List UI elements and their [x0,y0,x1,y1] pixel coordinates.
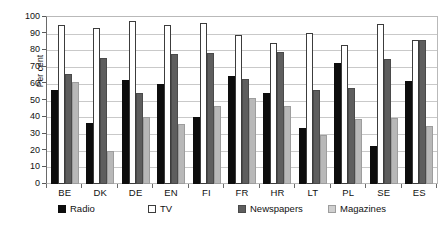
bar-lt-tv [306,33,313,184]
x-axis-labels: BEDKDEENFIFRHRLTPLSEES [47,187,437,198]
y-axis-tick-label: 0 [35,178,42,188]
bar-lt-radio [299,128,306,184]
bar-de-tv [129,21,136,184]
bar-group-dk [82,17,117,184]
x-axis-label-en: EN [153,187,188,198]
bar-chart: Per cent 0102030405060708090100 BEDKDEEN… [0,0,447,228]
x-axis-label-dk: DK [82,187,117,198]
legend-label: Magazines [340,203,386,214]
bar-se-tv [377,24,384,184]
bar-de-magazines [143,117,150,184]
y-axis-tick: 20 [30,145,46,155]
y-axis-tick: 30 [30,128,46,138]
bar-pl-radio [334,63,341,184]
bar-fi-newspapers [207,53,214,184]
bar-group-es [402,17,437,184]
x-axis-label-es: ES [402,187,437,198]
x-axis-label-be: BE [47,187,82,198]
bar-lt-newspapers [313,90,320,184]
legend-item-radio[interactable]: Radio [58,203,148,214]
legend-label: Newspapers [250,203,303,214]
bar-hr-tv [270,43,277,184]
legend-swatch-radio-icon [58,205,66,213]
bar-group-de [118,17,153,184]
bar-groups [47,17,437,184]
legend-swatch-magazines-icon [328,205,336,213]
bar-se-newspapers [384,59,391,184]
x-axis-label-fi: FI [189,187,224,198]
x-axis-label-hr: HR [260,187,295,198]
bar-be-magazines [72,82,79,184]
bar-es-radio [405,81,412,184]
bar-be-tv [58,25,65,184]
legend-label: Radio [70,203,95,214]
y-axis-tick-label: 100 [25,11,42,21]
bar-dk-radio [86,123,93,184]
bar-be-newspapers [65,74,72,184]
bar-group-be [47,17,82,184]
bar-lt-magazines [320,135,327,184]
x-axis-label-se: SE [366,187,401,198]
bar-pl-tv [341,45,348,184]
bar-group-pl [331,17,366,184]
bar-es-magazines [426,126,433,184]
y-axis-tick: 40 [30,111,46,121]
bar-hr-radio [263,93,270,184]
legend: RadioTVNewspapersMagazines [58,203,418,214]
bar-fr-newspapers [242,79,249,184]
x-axis-label-de: DE [118,187,153,198]
bar-en-tv [164,25,171,184]
bar-de-radio [122,80,129,184]
bar-fr-radio [228,76,235,184]
bar-en-radio [157,84,164,184]
y-axis-tick-label: 40 [30,111,42,121]
bar-group-lt [295,17,330,184]
bar-group-fr [224,17,259,184]
legend-label: TV [160,203,172,214]
y-axis-tick-label: 30 [30,128,42,138]
legend-item-magazines[interactable]: Magazines [328,203,418,214]
bar-es-tv [412,40,419,184]
bar-fr-magazines [249,98,256,184]
y-axis-tick-label: 10 [30,161,42,171]
bar-fr-tv [235,35,242,184]
bar-fi-radio [193,117,200,184]
y-axis-tick: 100 [25,11,46,21]
legend-item-tv[interactable]: TV [148,203,238,214]
bar-pl-magazines [355,119,362,184]
bar-group-se [366,17,401,184]
bar-be-radio [51,90,58,184]
x-axis-label-lt: LT [295,187,330,198]
bar-es-newspapers [419,40,426,184]
bar-fi-magazines [214,106,221,184]
y-axis-title: Per cent [35,33,45,109]
bar-pl-newspapers [348,88,355,184]
bar-group-fi [189,17,224,184]
legend-item-newspapers[interactable]: Newspapers [238,203,328,214]
bar-group-hr [260,17,295,184]
bar-hr-magazines [284,106,291,184]
x-axis-label-pl: PL [331,187,366,198]
y-axis-tick: 0 [35,178,46,188]
y-axis-tick: 10 [30,161,46,171]
bar-group-en [153,17,188,184]
x-axis-label-fr: FR [224,187,259,198]
legend-swatch-tv-icon [148,205,156,213]
bar-dk-tv [93,28,100,184]
bar-se-magazines [391,118,398,184]
legend-swatch-newspapers-icon [238,205,246,213]
bar-en-newspapers [171,54,178,184]
bar-en-magazines [178,124,185,184]
bar-dk-magazines [107,151,114,184]
bar-de-newspapers [136,93,143,184]
bar-se-radio [370,146,377,184]
bar-dk-newspapers [100,58,107,184]
bar-fi-tv [200,23,207,184]
bar-hr-newspapers [277,52,284,184]
y-axis-tick-label: 20 [30,145,42,155]
